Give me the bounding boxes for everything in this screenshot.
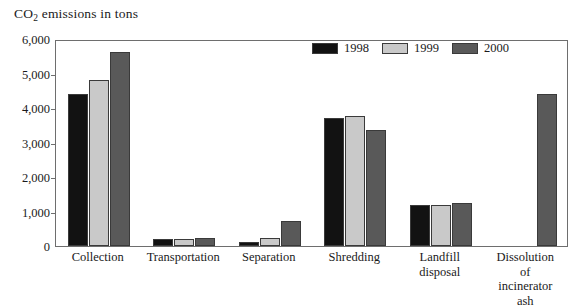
y-axis-tick-label: 5,000 <box>0 67 50 82</box>
legend-entry: 1999 <box>382 42 439 55</box>
legend-color-swatch <box>382 43 408 54</box>
bar <box>410 205 430 246</box>
y-axis-tick-mark <box>51 213 56 214</box>
y-axis-tick-label: 2,000 <box>0 171 50 186</box>
bar <box>431 205 451 246</box>
bar <box>195 238 215 246</box>
bar <box>239 242 259 246</box>
plot-area <box>55 40 568 247</box>
y-axis-tick-mark <box>51 178 56 179</box>
y-axis-tick-mark <box>51 75 56 76</box>
legend-entry: 2000 <box>452 42 509 55</box>
y-axis-tick-label: 4,000 <box>0 102 50 117</box>
y-axis: 01,0002,0003,0004,0005,0006,000 <box>0 0 50 285</box>
bar <box>110 52 130 246</box>
y-axis-tick-label: 6,000 <box>0 33 50 48</box>
y-axis-tick-mark <box>51 144 56 145</box>
x-axis-category-labels: CollectionTransportationSeparationShredd… <box>55 250 568 284</box>
legend-color-swatch <box>312 43 338 54</box>
y-axis-tick-label: 1,000 <box>0 205 50 220</box>
bars-layer <box>56 41 567 246</box>
bar <box>345 116 365 246</box>
x-axis-category-label: Shredding <box>329 250 380 265</box>
bar <box>452 203 472 246</box>
bar <box>260 238 280 246</box>
x-axis-category-label: Transportation <box>147 250 220 265</box>
chart-legend: 199819992000 <box>312 40 509 57</box>
bar <box>281 221 301 246</box>
bar <box>89 80 109 246</box>
legend-label: 1999 <box>414 42 439 55</box>
bar <box>68 94 88 246</box>
y-axis-tick-label: 0 <box>0 240 50 255</box>
legend-label: 2000 <box>484 42 509 55</box>
legend-label: 1998 <box>344 42 369 55</box>
legend-entry: 1998 <box>312 42 369 55</box>
chart-title-suffix: emissions in tons <box>38 6 138 21</box>
x-axis-category-label: Landfill disposal <box>419 250 460 279</box>
bar <box>153 239 173 246</box>
bar <box>537 94 557 246</box>
bar <box>324 118 344 246</box>
bar <box>366 130 386 246</box>
y-axis-tick-mark <box>51 109 56 110</box>
y-axis-tick-label: 3,000 <box>0 136 50 151</box>
bar <box>174 239 194 246</box>
x-axis-category-label: Dissolution of incinerator ash <box>496 250 554 308</box>
legend-color-swatch <box>452 43 478 54</box>
x-axis-category-label: Collection <box>72 250 124 265</box>
x-axis-category-label: Separation <box>242 250 295 265</box>
